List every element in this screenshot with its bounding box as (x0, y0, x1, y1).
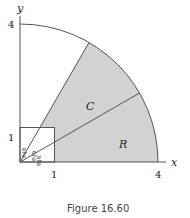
svg-text:6: 6 (22, 152, 26, 159)
figure-caption: Figure 16.60 (67, 203, 129, 214)
svg-text:6: 6 (32, 155, 36, 162)
figure-diagram: y x 4 1 1 4 C R π 6 π 6 π 6 Figure 16.60 (0, 0, 190, 218)
region-r-label: R (118, 138, 127, 151)
y-tick-4: 4 (8, 19, 14, 30)
y-tick-1: 1 (8, 132, 14, 143)
x-axis-label: x (171, 156, 178, 169)
x-tick-4: 4 (155, 169, 161, 180)
x-tick-1: 1 (51, 169, 57, 180)
region-c-label: C (86, 100, 95, 113)
shaded-region (40, 43, 158, 163)
y-axis-label: y (16, 2, 24, 15)
svg-text:6: 6 (37, 160, 41, 167)
